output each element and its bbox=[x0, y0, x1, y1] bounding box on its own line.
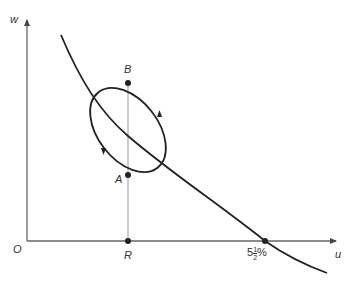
point-intercept bbox=[262, 238, 268, 244]
origin-label: O bbox=[13, 243, 22, 255]
point-r-label: R bbox=[124, 249, 132, 261]
x-intercept-label: 512% bbox=[247, 246, 267, 261]
x-axis-label: u bbox=[335, 248, 341, 260]
point-r bbox=[125, 238, 131, 244]
point-a-label: A bbox=[115, 173, 122, 185]
phillips-curve bbox=[61, 35, 327, 273]
diagram: w u O B A R 512% bbox=[0, 0, 353, 284]
arrow-up-icon bbox=[157, 110, 162, 117]
point-a bbox=[125, 172, 131, 178]
y-axis-label: w bbox=[10, 13, 18, 25]
point-b bbox=[125, 80, 131, 86]
diagram-canvas bbox=[0, 0, 353, 284]
arrow-down-icon bbox=[101, 148, 106, 155]
point-b-label: B bbox=[124, 63, 131, 75]
intercept-unit: % bbox=[257, 246, 267, 258]
